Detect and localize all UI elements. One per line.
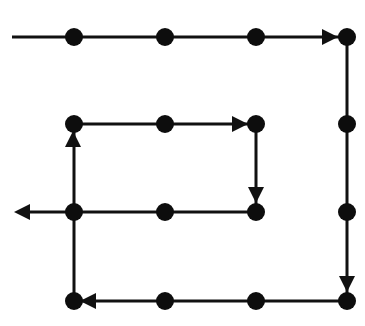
- arrow-down-inner-icon: [248, 187, 264, 203]
- node-n16: [156, 203, 174, 221]
- node-n15: [247, 203, 265, 221]
- node-n3: [247, 28, 265, 46]
- node-n1: [65, 28, 83, 46]
- node-n10: [65, 292, 83, 310]
- node-n4: [338, 28, 356, 46]
- grid-nodes: [65, 28, 356, 310]
- node-n5: [338, 115, 356, 133]
- node-n7: [338, 292, 356, 310]
- node-n2: [156, 28, 174, 46]
- node-n11: [65, 203, 83, 221]
- node-n8: [247, 292, 265, 310]
- node-n14: [247, 115, 265, 133]
- arrow-up-left-icon: [65, 131, 81, 147]
- arrow-left-exit-icon: [14, 204, 30, 220]
- arrow-right-inner-icon: [232, 116, 248, 132]
- node-n6: [338, 203, 356, 221]
- path-line: [12, 37, 347, 301]
- arrow-down-right-icon: [339, 276, 355, 292]
- node-n9: [156, 292, 174, 310]
- arrowheads: [14, 29, 355, 309]
- node-n12: [65, 115, 83, 133]
- spiral-path-diagram: [0, 0, 365, 326]
- spiral-path: [12, 37, 347, 301]
- arrow-right-top-icon: [322, 29, 338, 45]
- node-n13: [156, 115, 174, 133]
